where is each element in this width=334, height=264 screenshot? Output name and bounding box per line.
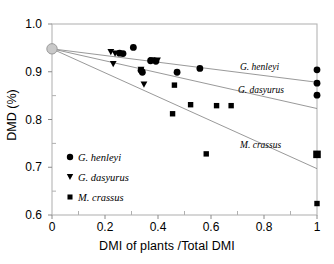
data-point-g-henleyi-10	[314, 80, 321, 87]
legend-marker-g-henleyi	[67, 154, 73, 160]
data-point-g-henleyi-7	[174, 69, 181, 76]
series-label-g-henleyi: G. henleyi	[240, 62, 279, 72]
plot-frame	[52, 24, 317, 215]
xtick-label-0_6: 0.6	[191, 220, 231, 234]
data-point-g-henleyi-9	[314, 66, 321, 73]
x-axis-title: DMI of plants /Total DMI	[0, 239, 334, 253]
data-point-m-crassus-1	[170, 111, 175, 116]
data-point-m-crassus-5	[204, 151, 209, 156]
legend-label-g-henleyi: G. henleyi	[78, 152, 121, 163]
series-label-m-crassus: M. crassus	[240, 140, 281, 150]
data-point-g-henleyi-2	[130, 44, 137, 51]
ytick-label-1: 1.0	[8, 17, 42, 31]
origin-marker	[47, 44, 57, 54]
xtick-label-0_8: 0.8	[244, 220, 284, 234]
origin-control-marker	[47, 44, 57, 54]
xtick-label-1: 1	[297, 220, 334, 234]
series-label-g-dasyurus: G. dasyurus	[238, 85, 284, 95]
legend-label-m-crassus: M. crassus	[78, 192, 124, 203]
data-point-m-crassus-6	[313, 151, 321, 159]
y-axis-title: DMD (%)	[5, 70, 19, 160]
xtick-label-0_4: 0.4	[138, 220, 178, 234]
data-point-m-crassus-4	[228, 103, 233, 108]
data-point-m-crassus-3	[214, 103, 219, 108]
legend-marker-m-crassus	[67, 194, 72, 199]
data-point-g-henleyi-11	[314, 92, 321, 99]
data-point-m-crassus-0	[172, 82, 177, 87]
data-point-g-henleyi-8	[196, 65, 203, 72]
ytick-label-0_7: 0.7	[8, 160, 42, 174]
legend-label-g-dasyurus: G. dasyurus	[78, 172, 129, 183]
data-point-m-crassus-7	[314, 201, 319, 206]
plot-border	[52, 24, 317, 215]
xtick-label-0: 0	[32, 220, 72, 234]
xtick-label-0_2: 0.2	[85, 220, 125, 234]
data-point-g-henleyi-1	[120, 50, 127, 57]
chart-figure: 1.0 0.9 0.8 0.7 0.6 0 0.2 0.4 0.6 0.8 1 …	[0, 0, 334, 264]
data-point-m-crassus-2	[188, 102, 193, 107]
